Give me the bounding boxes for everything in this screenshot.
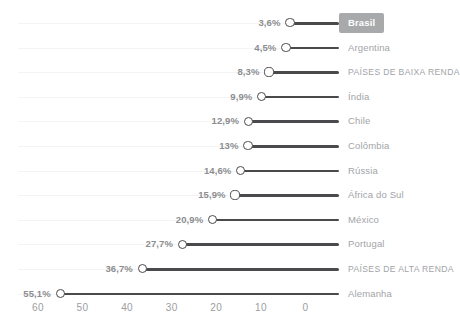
value-label: 4,5% [254, 39, 276, 57]
value-dot [208, 215, 217, 224]
chart-row: 27,7%Portugal [0, 235, 434, 253]
bar-line [142, 268, 340, 271]
category-label-highlighted: Brasil [339, 13, 384, 33]
bar-line [248, 120, 340, 123]
x-axis-tick-label: 20 [210, 302, 222, 313]
value-dot [244, 117, 253, 126]
value-dot [138, 264, 147, 273]
chart-row: 4,5%Argentina [0, 39, 434, 57]
category-label: PAÍSES DE ALTA RENDA [348, 260, 454, 278]
bar-line [268, 71, 339, 74]
category-label: Alemanha [348, 285, 392, 303]
x-axis-tick-label: 0 [303, 302, 309, 313]
bar-line [248, 145, 340, 148]
value-dot [243, 141, 252, 150]
x-axis-tick-label: 50 [77, 302, 89, 313]
chart-row: 9,9%Índia [0, 88, 434, 106]
bar-line [285, 47, 339, 50]
bar-line [60, 293, 340, 296]
value-dot [257, 92, 266, 101]
chart-row: 20,9%México [0, 211, 434, 229]
value-label: 55,1% [23, 285, 50, 303]
value-dot [285, 18, 294, 27]
value-label: 13% [219, 137, 238, 155]
value-dot [178, 240, 187, 249]
value-dot [230, 190, 239, 199]
x-axis: 6050403020100 [0, 302, 434, 322]
bar-line [261, 96, 339, 99]
x-axis-tick-label: 10 [255, 302, 267, 313]
x-axis-tick-label: 40 [121, 302, 133, 313]
chart-row: 14,6%Rússia [0, 162, 434, 180]
value-dot [281, 43, 290, 52]
category-label: Índia [348, 88, 369, 106]
value-label: 3,6% [258, 14, 280, 32]
category-label: PAÍSES DE BAIXA RENDA [348, 63, 460, 81]
value-label: 20,9% [176, 211, 203, 229]
value-label: 8,3% [237, 63, 259, 81]
chart-row: 8,3%PAÍSES DE BAIXA RENDA [0, 63, 434, 81]
bar-line [289, 22, 339, 25]
chart-row: 36,7%PAÍSES DE ALTA RENDA [0, 260, 434, 278]
value-label: 36,7% [105, 260, 132, 278]
value-label: 27,7% [146, 235, 173, 253]
value-label: 12,9% [212, 112, 239, 130]
bar-line [212, 219, 339, 222]
category-label: Argentina [348, 39, 390, 57]
bar-line [235, 194, 340, 197]
chart-row: 13%Colômbia [0, 137, 434, 155]
chart-row: 55,1%Alemanha [0, 285, 434, 303]
chart-row: 3,6%Brasil [0, 14, 434, 32]
value-label: 9,9% [230, 88, 252, 106]
category-label: África do Sul [348, 186, 404, 204]
category-label: Chile [348, 112, 370, 130]
category-label: Rússia [348, 162, 378, 180]
value-label: 14,6% [204, 162, 231, 180]
chart-row: 15,9%África do Sul [0, 186, 434, 204]
chart-row: 12,9%Chile [0, 112, 434, 130]
category-label: México [348, 211, 379, 229]
x-axis-tick-label: 30 [166, 302, 178, 313]
category-label: Colômbia [348, 137, 389, 155]
value-label: 15,9% [198, 186, 225, 204]
bar-line [240, 170, 339, 173]
value-dot [264, 67, 273, 76]
x-axis-tick-label: 60 [32, 302, 44, 313]
value-dot [56, 289, 65, 298]
category-label: Portugal [348, 235, 385, 253]
value-dot [236, 166, 245, 175]
bar-line [182, 243, 340, 246]
